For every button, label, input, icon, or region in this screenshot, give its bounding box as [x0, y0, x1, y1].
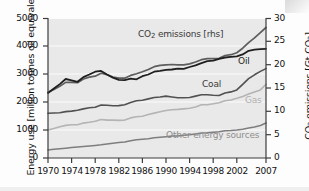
series-label-co2: CO2 emissions [rhs]	[138, 29, 223, 40]
series-label-coal: Coal	[202, 79, 221, 89]
right-tick-0: 0	[274, 152, 308, 162]
right-tick-20: 20	[274, 59, 308, 69]
series-label-gas: Gas	[245, 95, 262, 105]
left-tick-3000: 3000	[4, 68, 38, 78]
right-tick-15: 15	[274, 82, 308, 92]
right-tick-25: 25	[274, 35, 308, 45]
x-axis-ticks	[48, 158, 266, 163]
series-label-oil: Oil	[238, 56, 250, 66]
series-label-other: Other energy sources	[166, 130, 259, 140]
left-tick-1000: 1000	[4, 124, 38, 134]
left-axis-ticks	[43, 19, 48, 159]
x-tick-2002: 2002	[222, 166, 252, 176]
series-label-co2-pre: CO	[138, 29, 151, 39]
series-label-co2-post: emissions [rhs]	[155, 29, 223, 39]
right-tick-30: 30	[274, 13, 308, 23]
right-tick-5: 5	[274, 129, 308, 139]
right-axis-ticks	[266, 19, 271, 159]
x-tick-2007: 2007	[251, 166, 281, 176]
left-tick-4000: 4000	[4, 40, 38, 50]
chart-figure: Energy use [million tonnes oil equivalen…	[0, 0, 309, 191]
right-tick-10: 10	[274, 105, 308, 115]
left-tick-2000: 2000	[4, 96, 38, 106]
left-tick-0: 0	[4, 152, 38, 162]
left-tick-5000: 5000	[4, 13, 38, 23]
